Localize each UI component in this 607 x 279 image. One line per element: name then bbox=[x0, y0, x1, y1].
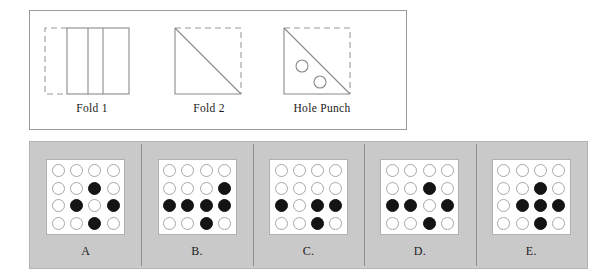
hole-dot-empty bbox=[218, 217, 231, 230]
hole-dot-empty bbox=[552, 182, 565, 195]
hole-dot-filled bbox=[107, 199, 120, 212]
hole-dot-empty bbox=[516, 164, 529, 177]
hole-dot-empty bbox=[441, 217, 454, 230]
hole-dot-empty bbox=[552, 217, 565, 230]
hole-dot-empty bbox=[386, 182, 399, 195]
hole-dot-empty bbox=[200, 182, 213, 195]
hole-dot-filled bbox=[275, 199, 288, 212]
option-e-label: E. bbox=[526, 244, 537, 259]
hole-dot-filled bbox=[552, 199, 565, 212]
hole-dot-empty bbox=[311, 182, 324, 195]
fold-1-sheet bbox=[67, 28, 129, 94]
option-b-label: B. bbox=[191, 244, 203, 259]
hole-dot-empty bbox=[329, 164, 342, 177]
punched-hole-icon bbox=[296, 60, 308, 72]
hole-dot-empty bbox=[88, 199, 101, 212]
hole-dot-empty bbox=[107, 182, 120, 195]
option-e-grid bbox=[492, 159, 571, 235]
option-d-grid bbox=[380, 159, 459, 235]
fold-1-dashed-outline bbox=[45, 28, 67, 94]
hole-dot-empty bbox=[404, 182, 417, 195]
hole-dot-empty bbox=[423, 199, 436, 212]
hole-dot-empty bbox=[497, 199, 510, 212]
answer-option-e[interactable]: E. bbox=[476, 142, 587, 268]
answer-option-a[interactable]: A bbox=[30, 142, 141, 268]
hole-dot-empty bbox=[181, 217, 194, 230]
hole-dot-empty bbox=[441, 182, 454, 195]
hole-dot-empty bbox=[70, 217, 83, 230]
hole-dot-empty bbox=[516, 182, 529, 195]
option-b-grid bbox=[158, 159, 237, 235]
fold-2-diagonal-crease bbox=[175, 28, 241, 94]
hole-dot-filled bbox=[200, 199, 213, 212]
hole-dot-filled bbox=[311, 217, 324, 230]
hole-dot-filled bbox=[386, 199, 399, 212]
hole-dot-empty bbox=[107, 164, 120, 177]
answer-option-b[interactable]: B. bbox=[141, 142, 252, 268]
hole-dot-empty bbox=[163, 217, 176, 230]
hole-dot-empty bbox=[534, 164, 547, 177]
answer-option-c[interactable]: C. bbox=[253, 142, 364, 268]
hole-dot-filled bbox=[163, 199, 176, 212]
fold-step-fold-1: Fold 1 bbox=[36, 22, 148, 122]
fold-1-diagram bbox=[36, 22, 148, 100]
hole-dot-empty bbox=[516, 217, 529, 230]
hole-dot-empty bbox=[404, 164, 417, 177]
hole-dot-empty bbox=[107, 217, 120, 230]
fold-2-diagram bbox=[153, 22, 265, 100]
hole-dot-empty bbox=[163, 182, 176, 195]
option-a-grid bbox=[46, 159, 125, 235]
hole-dot-empty bbox=[497, 217, 510, 230]
punched-hole-icon bbox=[314, 76, 326, 88]
hole-dot-empty bbox=[218, 164, 231, 177]
hole-dot-filled bbox=[534, 217, 547, 230]
fold-sequence-panel: Fold 1 Fold 2 bbox=[29, 10, 407, 130]
hole-dot-empty bbox=[181, 164, 194, 177]
fold-1-caption: Fold 1 bbox=[36, 102, 148, 114]
hole-dot-empty bbox=[70, 182, 83, 195]
hole-dot-empty bbox=[293, 217, 306, 230]
hole-dot-empty bbox=[200, 164, 213, 177]
fold-step-fold-2: Fold 2 bbox=[153, 22, 265, 122]
hole-dot-filled bbox=[88, 217, 101, 230]
hole-dot-filled bbox=[423, 217, 436, 230]
hole-dot-empty bbox=[293, 199, 306, 212]
option-a-label: A bbox=[81, 244, 90, 259]
hole-dot-empty bbox=[163, 164, 176, 177]
hole-dot-empty bbox=[423, 164, 436, 177]
hole-dot-empty bbox=[293, 182, 306, 195]
fold-step-hole-punch: Hole Punch bbox=[266, 22, 378, 122]
hole-dot-filled bbox=[218, 182, 231, 195]
hole-dot-empty bbox=[497, 182, 510, 195]
hole-dot-filled bbox=[218, 199, 231, 212]
hole-dot-empty bbox=[275, 164, 288, 177]
hole-dot-filled bbox=[423, 182, 436, 195]
hole-dot-empty bbox=[70, 164, 83, 177]
hole-dot-empty bbox=[329, 182, 342, 195]
hole-dot-empty bbox=[52, 199, 65, 212]
option-c-grid bbox=[269, 159, 348, 235]
hole-punch-caption: Hole Punch bbox=[266, 102, 378, 114]
paper-folding-question: Fold 1 Fold 2 bbox=[0, 0, 607, 279]
hole-dot-filled bbox=[404, 199, 417, 212]
hole-dot-empty bbox=[293, 164, 306, 177]
answer-options-panel: A B. C. D. E. bbox=[29, 141, 588, 269]
hole-dot-empty bbox=[52, 182, 65, 195]
hole-dot-filled bbox=[181, 199, 194, 212]
hole-dot-empty bbox=[52, 217, 65, 230]
hole-dot-filled bbox=[441, 199, 454, 212]
hole-dot-filled bbox=[200, 217, 213, 230]
hole-dot-filled bbox=[329, 199, 342, 212]
hole-dot-filled bbox=[311, 199, 324, 212]
answer-option-d[interactable]: D. bbox=[364, 142, 475, 268]
hole-dot-empty bbox=[552, 164, 565, 177]
option-c-label: C. bbox=[303, 244, 315, 259]
hole-dot-filled bbox=[534, 182, 547, 195]
fold-2-caption: Fold 2 bbox=[153, 102, 265, 114]
hole-dot-empty bbox=[329, 217, 342, 230]
hole-dot-empty bbox=[181, 182, 194, 195]
hole-dot-empty bbox=[52, 164, 65, 177]
hole-dot-empty bbox=[386, 217, 399, 230]
hole-dot-empty bbox=[88, 164, 101, 177]
hole-dot-empty bbox=[497, 164, 510, 177]
